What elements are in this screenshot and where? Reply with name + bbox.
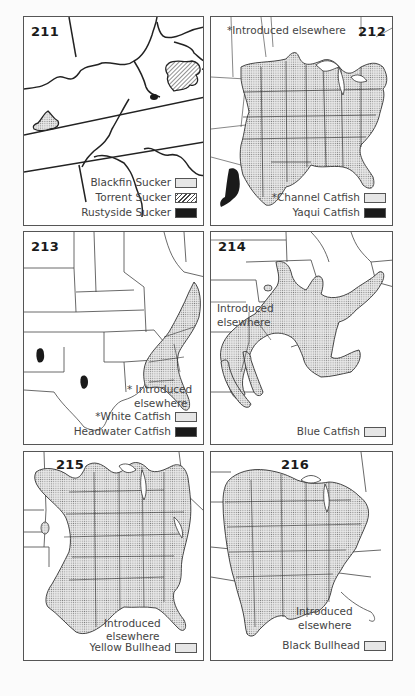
introduced-note-line2: elsewhere [134, 397, 188, 410]
legend-label: Blue Catfish [297, 425, 360, 438]
yellow-bullhead-range [35, 463, 191, 634]
legend-label: Rustyside Sucker [81, 206, 171, 219]
solid-swatch-icon [175, 208, 197, 218]
introduced-note-line1: * Introduced [127, 383, 192, 396]
legend-label: Headwater Catfish [74, 425, 171, 438]
stipple-swatch-icon [175, 643, 197, 653]
headwater-catfish-range-north [36, 348, 44, 362]
introduced-note-line1: Introduced [104, 617, 161, 630]
blue-catfish-range [220, 261, 383, 399]
yaqui-catfish-range [220, 168, 240, 207]
legend-item: Blackfin Sucker [90, 176, 197, 189]
us-map-blue-catfish [211, 232, 393, 445]
stipple-swatch-icon [364, 427, 386, 437]
panel-number: 212 [358, 24, 386, 39]
stipple-swatch-icon [364, 193, 386, 203]
panel-number: 215 [56, 457, 84, 472]
legend-item: Yellow Bullhead [89, 641, 197, 654]
legend-item: Black Bullhead [282, 639, 386, 652]
solid-swatch-icon [175, 427, 197, 437]
stipple-swatch-icon [175, 412, 197, 422]
introduced-note: *Introduced elsewhere [227, 24, 346, 37]
legend-item: Headwater Catfish [74, 425, 197, 438]
map-panel-214: 214 Introduced elsewhere Blue Catfish [210, 231, 393, 445]
legend-label: *White Catfish [95, 410, 171, 423]
introduced-note-line1: Introduced [296, 605, 353, 618]
legend: Black Bullhead [282, 639, 386, 652]
legend: *White Catfish Headwater Catfish [74, 410, 197, 438]
panel-number: 211 [31, 24, 59, 39]
legend-item: Yaqui Catfish [292, 206, 386, 219]
introduced-pond-icon [41, 522, 49, 534]
introduced-note-line1: Introduced [217, 302, 274, 315]
solid-swatch-icon [364, 208, 386, 218]
stipple-swatch-icon [364, 641, 386, 651]
torrent-sucker-range [166, 61, 200, 91]
legend-label: Yaqui Catfish [292, 206, 360, 219]
legend-item: Blue Catfish [297, 425, 386, 438]
panel-number: 213 [31, 239, 59, 254]
legend: Blue Catfish [297, 425, 386, 438]
legend-label: Yellow Bullhead [89, 641, 171, 654]
legend-item: *Channel Catfish [272, 191, 386, 204]
introduced-pond-icon [264, 285, 272, 291]
legend-label: Black Bullhead [282, 639, 360, 652]
legend-item: Torrent Sucker [96, 191, 197, 204]
legend-label: Blackfin Sucker [90, 176, 171, 189]
legend: Blackfin Sucker Torrent Sucker Rustyside… [81, 176, 197, 219]
legend: *Channel Catfish Yaqui Catfish [272, 191, 386, 219]
legend-item: *White Catfish [95, 410, 197, 423]
introduced-note-line2: elsewhere [298, 619, 352, 632]
panel-number: 216 [281, 457, 309, 472]
hatch-swatch-icon [175, 193, 197, 203]
map-panel-213: 213 * Introduced elsewhere *White Catfis… [23, 231, 204, 445]
legend-item: Rustyside Sucker [81, 206, 197, 219]
map-panel-216: 216 Introduced elsewhere Black Bullhead [210, 451, 393, 661]
introduced-note-line2: elsewhere [217, 316, 271, 329]
rustyside-sucker-range [150, 94, 158, 100]
map-panel-211: 211 Blackfin Sucker Torrent Sucker Rusty… [23, 16, 204, 226]
map-panel-212: *Introduced elsewhere 212 *Channel Catfi… [210, 16, 393, 226]
legend-label: *Channel Catfish [272, 191, 360, 204]
stipple-swatch-icon [175, 178, 197, 188]
blackfin-sucker-range [33, 111, 58, 131]
headwater-catfish-range-south [80, 376, 88, 389]
map-panel-215: 215 Introduced elsewhere Yellow Bullhead [23, 451, 204, 661]
legend: Yellow Bullhead [89, 641, 197, 654]
panel-number: 214 [218, 239, 246, 254]
legend-label: Torrent Sucker [96, 191, 171, 204]
